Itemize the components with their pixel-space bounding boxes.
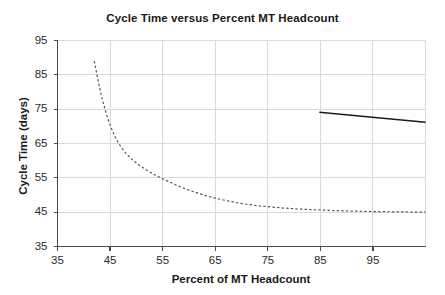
x-tick-label: 45 xyxy=(90,255,130,267)
x-tick-label: 75 xyxy=(248,255,288,267)
data-series-group xyxy=(94,61,425,212)
x-tick-label: 55 xyxy=(143,255,183,267)
x-tick-label: 95 xyxy=(353,255,393,267)
y-tick-label: 55 xyxy=(18,172,48,184)
plot-area xyxy=(0,0,445,295)
series-line-0 xyxy=(94,61,425,212)
y-tick-label: 65 xyxy=(18,138,48,150)
x-tick-label: 85 xyxy=(300,255,340,267)
y-tick-label: 35 xyxy=(18,241,48,253)
y-tick-label: 95 xyxy=(18,35,48,47)
y-tick-label: 75 xyxy=(18,103,48,115)
x-tick-label: 35 xyxy=(38,255,78,267)
y-tick-label: 85 xyxy=(18,69,48,81)
series-line-1 xyxy=(319,112,425,122)
chart-container: Cycle Time versus Percent MT Headcount C… xyxy=(0,0,445,295)
y-tick-label: 45 xyxy=(18,206,48,218)
x-tick-label: 65 xyxy=(195,255,235,267)
y-gridlines xyxy=(58,41,426,213)
